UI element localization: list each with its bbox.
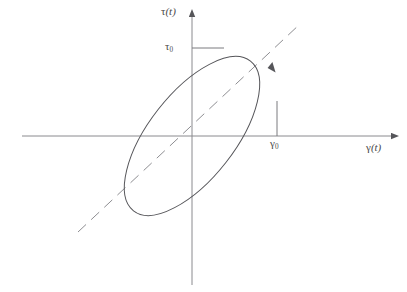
loop-direction-arrow-icon: [268, 62, 276, 73]
gamma-zero-subscript: 0: [275, 143, 279, 151]
gamma-zero-label: γ0: [270, 138, 279, 149]
tau-zero-symbol: τ: [165, 40, 169, 52]
y-axis-argument: (t): [165, 5, 175, 17]
y-axis-label: τ(t): [161, 6, 176, 17]
plot-svg: [0, 0, 407, 292]
x-axis-label: γ(t): [366, 142, 381, 153]
tau-zero-subscript: 0: [170, 46, 174, 54]
figure-canvas: τ(t) γ(t) τ0 γ0: [0, 0, 407, 292]
x-axis-argument: (t): [371, 141, 381, 153]
major-axis-dashed-line: [78, 24, 300, 232]
tau-zero-label: τ0: [165, 41, 173, 52]
